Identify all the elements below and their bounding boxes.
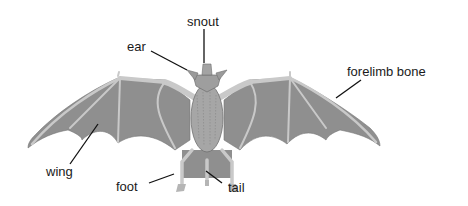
bat-anatomy-diagram: snout ear forelimb bone wing foot tail [0, 0, 468, 206]
label-tail: tail [228, 180, 245, 195]
leader-forelimb-bone [336, 80, 361, 98]
tail-tip [205, 180, 209, 186]
label-forelimb-bone: forelimb bone [347, 64, 426, 79]
label-wing: wing [45, 164, 73, 179]
right-wing-membrane [224, 78, 380, 150]
leader-foot [149, 174, 174, 183]
bat-body [191, 84, 223, 152]
label-snout: snout [187, 14, 219, 29]
bat-head [193, 75, 221, 92]
label-ear: ear [127, 39, 146, 54]
left-foot [176, 184, 186, 192]
leader-ear [151, 51, 187, 70]
bat-snout [202, 64, 212, 75]
label-foot: foot [116, 179, 138, 194]
